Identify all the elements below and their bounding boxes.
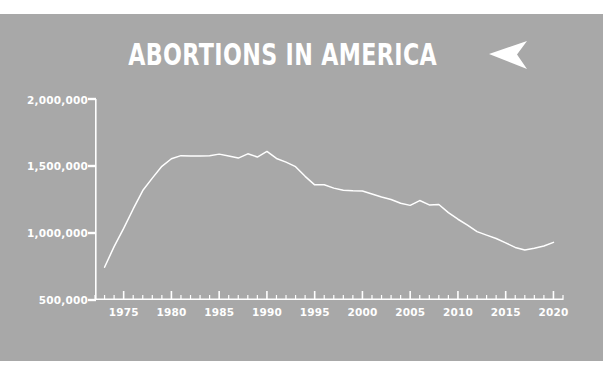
page-title: ABORTIONS IN AMERICA (128, 40, 437, 70)
x-tick-label: 2000 (347, 306, 377, 318)
x-tick-label: 1990 (252, 306, 282, 318)
chart-header: ABORTIONS IN AMERICA (0, 30, 603, 80)
x-tick-label: 1995 (300, 306, 330, 318)
plot-area (95, 99, 563, 300)
x-tick-label: 2015 (491, 306, 521, 318)
y-tick-label: 1,500,000 (2, 160, 88, 172)
x-tick-label: 1980 (156, 306, 186, 318)
line-chart-svg (95, 99, 563, 300)
chart-screenshot: ABORTIONS IN AMERICA 2,000,000 1,500,000… (0, 0, 603, 365)
y-tick-label: 1,000,000 (2, 227, 88, 239)
x-axis-labels: 1975198019851990199520002005201020152020 (95, 306, 563, 326)
x-tick-label: 1975 (109, 306, 139, 318)
x-tick-label: 1985 (204, 306, 234, 318)
play-arrow-left-icon (487, 39, 529, 71)
x-tick-label: 2020 (538, 306, 568, 318)
y-axis-labels: 2,000,000 1,500,000 1,000,000 500,000 (0, 0, 88, 365)
poster-bottom-edge (0, 361, 603, 365)
x-tick-label: 2010 (443, 306, 473, 318)
y-tick-label: 500,000 (2, 294, 88, 306)
abortions-trend-line (105, 151, 554, 267)
y-tick-label: 2,000,000 (2, 94, 88, 106)
x-tick-label: 2005 (395, 306, 425, 318)
axis-lines (95, 99, 563, 300)
